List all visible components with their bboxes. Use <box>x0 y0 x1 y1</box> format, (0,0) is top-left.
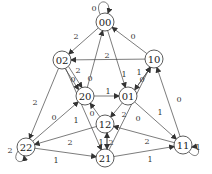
node-20: 20 <box>76 87 94 105</box>
edge-label: 1 <box>157 108 162 117</box>
loop-label: 1 <box>195 143 200 152</box>
edge-label: 0 <box>135 114 140 123</box>
edge-label: 2 <box>32 98 37 107</box>
edge-label: 0 <box>130 32 135 41</box>
node-11: 11 <box>174 136 192 154</box>
edge-01-to-12: 2 <box>111 103 127 119</box>
node-10: 10 <box>145 50 163 68</box>
edge-label: 1 <box>53 156 58 165</box>
node-label: 20 <box>79 91 92 102</box>
edge-21-to-11: 1 <box>114 146 174 163</box>
node-label: 00 <box>99 17 112 28</box>
edge-label: 1 <box>121 70 126 79</box>
edge-label: 2 <box>67 138 72 147</box>
loop-label: 2 <box>7 146 12 155</box>
edge-00-to-02: 2 <box>69 28 99 54</box>
edge-label: 0 <box>89 109 94 118</box>
edge-22-to-20: 0 <box>33 102 78 141</box>
edge-20-to-01: 1 <box>94 87 119 97</box>
node-label: 22 <box>20 142 33 153</box>
edge-11-to-10: 0 <box>157 68 182 137</box>
node-label: 21 <box>99 153 112 164</box>
graph-canvas: 202200110120102010212121021 000210200112… <box>0 0 212 174</box>
node-02: 02 <box>53 51 71 69</box>
loop-label: 0 <box>91 4 96 13</box>
edge-label: 1 <box>98 138 103 147</box>
edge-label: 1 <box>73 116 78 125</box>
edge-22-to-21: 1 <box>35 148 96 164</box>
edge-label: 2 <box>104 51 109 60</box>
node-label: 02 <box>56 55 69 66</box>
edge-label: 1 <box>105 87 110 96</box>
edge-label: 0 <box>87 74 92 83</box>
node-label: 11 <box>177 140 190 151</box>
node-label: 12 <box>99 119 112 130</box>
edge-label: 2 <box>73 32 78 41</box>
edge-label: 2 <box>75 66 80 75</box>
edge-10-to-02: 2 <box>71 51 145 60</box>
edge-label: 2 <box>144 137 149 146</box>
edge-label: 0 <box>70 75 75 84</box>
edge-10-to-00: 0 <box>112 27 147 53</box>
self-loop-00: 0 <box>91 2 108 14</box>
edge-12-to-22: 2 <box>35 127 97 147</box>
edge-20-to-00: 0 <box>87 31 102 88</box>
edge-02-to-22: 2 <box>29 68 58 138</box>
edge-label: 0 <box>51 113 56 122</box>
edge-label: 0 <box>176 95 181 104</box>
node-00: 00 <box>96 13 114 31</box>
edge-label: 1 <box>147 155 152 164</box>
node-12: 12 <box>96 115 114 133</box>
node-label: 01 <box>122 91 135 102</box>
edge-12-to-20: 0 <box>89 103 99 117</box>
node-22: 22 <box>17 138 35 156</box>
node-01: 01 <box>119 87 137 105</box>
edge-label: 2 <box>121 110 126 119</box>
node-label: 10 <box>148 54 161 65</box>
node-21: 21 <box>96 149 114 167</box>
state-graph: 202200110120102010212121021 000210200112… <box>0 0 212 174</box>
edge-label: 2 <box>108 138 113 147</box>
